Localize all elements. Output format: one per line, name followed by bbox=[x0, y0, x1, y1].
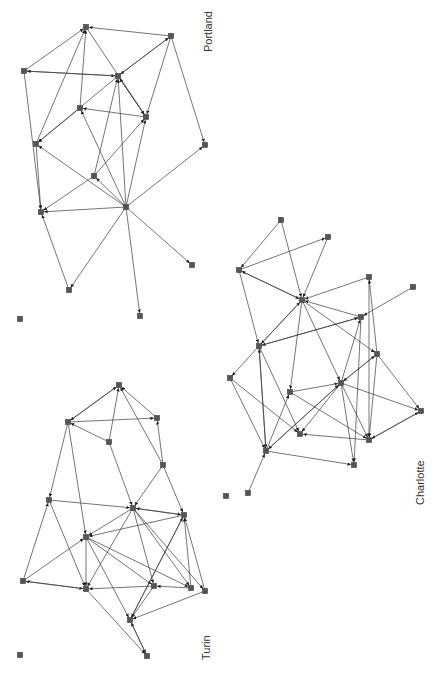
node-j bbox=[20, 578, 25, 583]
node-H bbox=[202, 142, 207, 147]
edge-l-to-o bbox=[132, 588, 153, 617]
node-P9 bbox=[374, 351, 379, 356]
edge-c-to-a bbox=[121, 387, 155, 416]
edge-b-to-f bbox=[50, 425, 68, 497]
edge-e-to-g bbox=[135, 467, 162, 505]
edge-b-to-i bbox=[68, 425, 85, 534]
edge-P7-to-P6 bbox=[305, 301, 359, 316]
node-M bbox=[66, 287, 71, 292]
node-P13 bbox=[418, 408, 423, 413]
edge-P10-to-P14 bbox=[232, 380, 298, 432]
edge-d-to-g bbox=[110, 444, 132, 505]
network-portland: Portland bbox=[17, 11, 214, 322]
edge-P11-to-P17 bbox=[341, 386, 353, 462]
node-n bbox=[202, 588, 207, 593]
edge-J-to-M bbox=[71, 209, 125, 287]
edge-B-to-F bbox=[147, 38, 170, 114]
edge-P2-to-P6 bbox=[303, 239, 327, 297]
node-P3 bbox=[236, 267, 241, 272]
node-N bbox=[137, 313, 142, 318]
node-F bbox=[143, 114, 148, 119]
edge-P1-to-P3 bbox=[241, 222, 279, 268]
node-o bbox=[127, 617, 132, 622]
node-m bbox=[188, 585, 193, 590]
edge-P7-to-P17 bbox=[354, 320, 361, 462]
edge-D-to-C bbox=[27, 71, 115, 76]
node-c bbox=[154, 415, 159, 420]
node-J bbox=[123, 204, 128, 209]
network-label-turin: Turin bbox=[200, 635, 212, 660]
node-P8 bbox=[256, 343, 261, 348]
edge-J-to-K bbox=[44, 207, 123, 212]
edge-I-to-D bbox=[95, 79, 118, 173]
edge-P8-to-P10 bbox=[232, 348, 257, 376]
edge-P1-to-P6 bbox=[282, 223, 302, 297]
edge-P10-to-P16 bbox=[231, 380, 264, 448]
node-P4 bbox=[366, 274, 371, 279]
edge-P9-to-P13 bbox=[379, 356, 420, 408]
node-P5 bbox=[410, 284, 415, 289]
edge-P6-to-P8 bbox=[261, 302, 300, 344]
edge-F-to-D bbox=[120, 79, 145, 115]
edge-P3-to-P2 bbox=[241, 238, 325, 269]
edge-E-to-A bbox=[80, 30, 86, 105]
edge-J-to-D bbox=[118, 79, 126, 204]
node-a bbox=[116, 382, 121, 387]
node-G bbox=[33, 141, 38, 146]
edge-p-to-o bbox=[131, 623, 146, 654]
edge-h-to-g bbox=[136, 508, 181, 514]
edge-P6-to-P12 bbox=[290, 303, 301, 389]
edge-I-to-F bbox=[96, 119, 144, 174]
edge-P3-to-P8 bbox=[240, 273, 259, 343]
edge-J-to-F bbox=[127, 120, 146, 204]
edge-g-to-l bbox=[134, 511, 154, 583]
edge-d-to-a bbox=[109, 388, 118, 439]
network-turin: Turin bbox=[17, 382, 212, 660]
edge-J-to-L bbox=[128, 209, 190, 263]
edge-j-to-i bbox=[25, 539, 83, 580]
node-P2 bbox=[325, 234, 330, 239]
edge-P11-to-P13 bbox=[343, 384, 418, 410]
edge-J-to-H bbox=[128, 147, 203, 205]
edge-f-to-k bbox=[50, 502, 85, 586]
node-P7 bbox=[358, 314, 363, 319]
network-label-portland: Portland bbox=[202, 11, 214, 52]
node-P17 bbox=[351, 462, 356, 467]
edge-G-to-A bbox=[37, 30, 85, 142]
node-P16 bbox=[263, 448, 268, 453]
node-P12 bbox=[287, 389, 292, 394]
edge-P9-to-P4 bbox=[369, 280, 376, 351]
edge-P8-to-P7 bbox=[262, 318, 359, 345]
node-f bbox=[46, 497, 51, 502]
edge-P18-to-P16 bbox=[249, 454, 265, 491]
node-l bbox=[151, 583, 156, 588]
node-q bbox=[17, 652, 22, 657]
node-h bbox=[181, 512, 186, 517]
edge-C-to-A bbox=[26, 29, 83, 70]
edge-h-to-i bbox=[89, 516, 181, 537]
edge-i-to-l bbox=[88, 539, 151, 585]
node-g bbox=[130, 505, 135, 510]
node-P14 bbox=[297, 431, 302, 436]
edge-k-to-p bbox=[88, 591, 145, 654]
edge-P4-to-P6 bbox=[305, 278, 367, 299]
edge-a-to-b bbox=[71, 387, 117, 421]
edge-g-to-k bbox=[88, 510, 132, 586]
network-label-charlotte: Charlotte bbox=[414, 460, 426, 505]
edge-f-to-g bbox=[52, 500, 130, 507]
edge-e-to-h bbox=[164, 467, 183, 512]
edge-n-to-o bbox=[133, 592, 203, 619]
edge-l-to-k bbox=[89, 586, 151, 589]
node-k bbox=[83, 586, 88, 591]
node-P6 bbox=[299, 297, 304, 302]
node-P11 bbox=[338, 380, 343, 385]
node-P19 bbox=[223, 493, 228, 498]
edge-P12-to-P11 bbox=[293, 384, 338, 392]
node-I bbox=[91, 173, 96, 178]
edge-d-to-b bbox=[71, 423, 107, 441]
edge-P11-to-P14 bbox=[302, 385, 339, 432]
edge-P16-to-P17 bbox=[269, 451, 351, 464]
edge-P16-to-P8 bbox=[259, 349, 266, 448]
edge-B-to-H bbox=[172, 38, 204, 142]
network-diagrams-canvas: Portland Turin Charlotte bbox=[0, 0, 437, 698]
